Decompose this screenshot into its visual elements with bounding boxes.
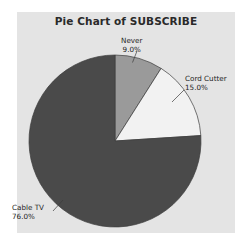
pie-chart-figure: Pie Chart of SUBSCRIBE Never 9.0% Cord C… [0,0,250,251]
slice-label-cord-cutter: Cord Cutter 15.0% [185,74,227,92]
slice-label-never-text: Never [121,36,142,45]
slice-label-cable-tv-text: Cable TV [12,203,44,212]
slice-label-cord-cutter-percent: 15.0% [185,83,227,92]
slice-label-cable-tv-percent: 76.0% [12,212,44,221]
slice-label-cable-tv: Cable TV 76.0% [12,203,44,221]
slice-label-never: Never 9.0% [121,36,142,54]
slice-label-never-percent: 9.0% [121,45,142,54]
slice-label-cord-cutter-text: Cord Cutter [185,74,227,83]
